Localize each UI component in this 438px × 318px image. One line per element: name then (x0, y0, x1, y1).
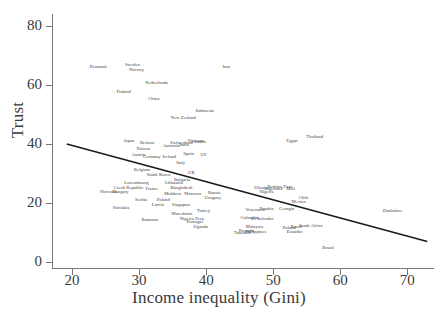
point-label: South Africa (299, 223, 323, 228)
point-label: Moldova (164, 190, 181, 195)
x-tick-label-3: 50 (253, 272, 293, 289)
point-label: Nigeria (259, 188, 273, 193)
point-label: Zambia (259, 206, 273, 211)
x-tick-label-2: 40 (186, 272, 226, 289)
x-tick-label-4: 60 (320, 272, 360, 289)
point-label: Serbia (135, 197, 147, 202)
y-tick-label-1: 20 (0, 194, 42, 211)
y-tick-label-0: 0 (0, 253, 42, 270)
point-label: India (179, 141, 189, 146)
y-tick-mark (46, 144, 53, 145)
point-label: Iran (222, 63, 230, 68)
point-label: US (200, 151, 206, 156)
point-label: Latvia (152, 201, 164, 206)
point-label: Finland (117, 88, 131, 93)
x-tick-label-1: 30 (119, 272, 159, 289)
point-label: Bulgaria (174, 176, 190, 181)
point-label: Canada (192, 139, 206, 144)
x-axis-title: Income inequality (Gini) (0, 288, 438, 308)
point-label: Romania (141, 217, 158, 222)
point-label: Italy (176, 160, 185, 165)
point-label: New Zealand (171, 115, 196, 120)
point-label: Denmark (90, 63, 107, 68)
scatter-chart: Trust Income inequality (Gini) 020406080… (0, 0, 438, 318)
point-label: Egypt (286, 138, 297, 143)
point-label: Georgia (279, 206, 294, 211)
point-label: Spain (183, 151, 194, 156)
y-tick-mark (46, 203, 53, 204)
trend-line (0, 0, 438, 318)
point-label: Brazil (322, 245, 334, 250)
y-tick-mark (46, 262, 53, 263)
point-label: Bangladesh (170, 184, 192, 189)
point-label: Singapore (172, 201, 191, 206)
point-label: Germany (143, 153, 160, 158)
point-label: Turkey (197, 208, 210, 213)
point-label: Uganda (193, 224, 208, 229)
x-tick-label-0: 20 (52, 272, 92, 289)
point-label: Taiwan (136, 145, 150, 150)
y-tick-mark (46, 26, 53, 27)
point-label: France (145, 185, 158, 190)
point-label: Belarus (140, 140, 154, 145)
y-tick-mark (46, 85, 53, 86)
point-label: El Salvador (251, 216, 273, 221)
point-label: Mali (286, 185, 295, 190)
point-label: Slovakia (113, 205, 129, 210)
point-label: Netherlands (145, 79, 168, 84)
point-label: China (148, 96, 159, 101)
point-label: UK (188, 170, 195, 175)
point-label: Australia (163, 142, 180, 147)
x-axis-line (52, 268, 434, 269)
point-label: South Korea (147, 172, 171, 177)
point-label: Ireland (163, 153, 176, 158)
point-label: Rwanda (239, 228, 254, 233)
y-axis-line (52, 14, 53, 268)
point-label: Thailand (306, 133, 323, 138)
y-tick-label-4: 80 (0, 17, 42, 34)
point-label: Japan (124, 137, 135, 142)
point-label: Mexico (291, 199, 305, 204)
point-label: Ecuador (287, 229, 303, 234)
point-label: Zimbabwe (382, 208, 402, 213)
point-label: Morocco (184, 191, 201, 196)
point-label: Norway (129, 66, 144, 71)
point-label: Macedonia (172, 211, 193, 216)
point-label: Indonesia (196, 107, 214, 112)
x-tick-label-5: 70 (387, 272, 427, 289)
y-tick-label-3: 60 (0, 76, 42, 93)
point-label: Uruguay (205, 194, 221, 199)
point-label: Hungary (112, 189, 128, 194)
y-tick-label-2: 40 (0, 135, 42, 152)
